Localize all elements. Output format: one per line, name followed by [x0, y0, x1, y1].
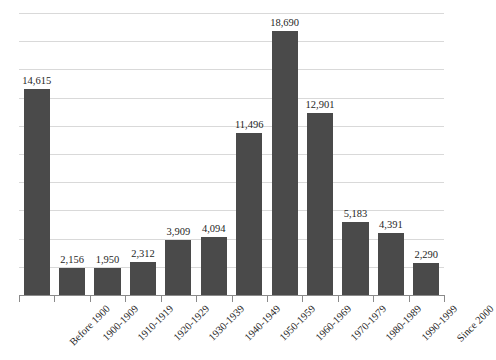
x-axis-category-label: 1970-1979 — [348, 303, 388, 343]
x-axis-tick — [196, 295, 197, 302]
bar-group: 12,901 — [307, 13, 333, 295]
bar[interactable] — [94, 268, 120, 295]
bar[interactable] — [413, 263, 439, 295]
x-axis-tick — [125, 295, 126, 302]
x-axis-category-label: 1960-1969 — [313, 303, 353, 343]
x-axis-category-label-text: 1980-1989 — [384, 303, 424, 343]
x-axis-category-label-text: 1930-1939 — [207, 303, 247, 343]
bar-group: 14,615 — [24, 13, 50, 295]
x-axis-category-label-text: 1940-1949 — [242, 303, 282, 343]
x-axis-category-label-text: Since 2000 — [455, 303, 496, 344]
x-axis-category-label-text: 1910-1919 — [136, 303, 176, 343]
x-axis-tick — [373, 295, 374, 302]
bar-group: 11,496 — [236, 13, 262, 295]
x-axis-tick — [232, 295, 233, 302]
x-axis-tick — [54, 295, 55, 302]
x-axis-tick — [338, 295, 339, 302]
bar-value-label: 2,312 — [131, 248, 155, 259]
x-axis-category-label-text: Before 1900 — [67, 303, 112, 348]
bar-value-label: 2,290 — [414, 249, 438, 260]
bar-group: 2,290 — [413, 13, 439, 295]
bar[interactable] — [201, 237, 227, 295]
bar-value-label: 1,950 — [96, 254, 120, 265]
bar-group: 3,909 — [165, 13, 191, 295]
x-axis-category-label: 1910-1919 — [136, 303, 176, 343]
x-axis-category-labels: Before 19001900-19091910-19191920-192919… — [19, 303, 444, 360]
bar-value-label: 11,496 — [235, 119, 264, 130]
bar-value-label: 4,094 — [202, 223, 226, 234]
bar-value-label: 14,615 — [22, 75, 51, 86]
bar-group: 2,312 — [130, 13, 156, 295]
bar[interactable] — [24, 89, 50, 295]
x-axis-category-label-text: 1960-1969 — [313, 303, 353, 343]
x-axis-category-label: 1950-1959 — [277, 303, 317, 343]
bar-value-label: 12,901 — [306, 99, 335, 110]
bar-group: 1,950 — [94, 13, 120, 295]
bar-value-label: 2,156 — [60, 254, 84, 265]
bar[interactable] — [342, 222, 368, 295]
bar-value-label: 4,391 — [379, 219, 403, 230]
x-axis-category-label-text: 1990-1999 — [419, 303, 459, 343]
bar[interactable] — [307, 113, 333, 295]
x-axis-tick — [302, 295, 303, 302]
x-axis-tick — [161, 295, 162, 302]
bar-group: 18,690 — [272, 13, 298, 295]
x-axis-category-label-text: 1970-1979 — [348, 303, 388, 343]
bar[interactable] — [165, 240, 191, 295]
bar[interactable] — [59, 268, 85, 295]
x-axis-tick — [409, 295, 410, 302]
x-axis-tick — [19, 295, 20, 302]
x-axis-tick — [444, 295, 445, 302]
bar-value-label: 5,183 — [344, 208, 368, 219]
x-axis-category-label: Since 2000 — [455, 303, 496, 344]
bar[interactable] — [236, 133, 262, 295]
x-axis-tick — [90, 295, 91, 302]
bar-group: 4,391 — [378, 13, 404, 295]
x-axis-category-label: 1920-1929 — [171, 303, 211, 343]
bar[interactable] — [272, 31, 298, 295]
x-axis-category-label-text: 1920-1929 — [171, 303, 211, 343]
x-axis-category-label: 1990-1999 — [419, 303, 459, 343]
x-axis-category-label: 1940-1949 — [242, 303, 282, 343]
bar-value-label: 18,690 — [270, 17, 299, 28]
bar-group: 2,156 — [59, 13, 85, 295]
bars-layer: 14,6152,1561,9502,3123,9094,09411,49618,… — [19, 13, 444, 295]
bar[interactable] — [130, 262, 156, 295]
x-axis-category-label: 1980-1989 — [384, 303, 424, 343]
x-axis-tick — [267, 295, 268, 302]
x-axis-category-label: 1930-1939 — [207, 303, 247, 343]
bar-group: 4,094 — [201, 13, 227, 295]
x-axis-category-label-text: 1950-1959 — [277, 303, 317, 343]
bar-value-label: 3,909 — [167, 226, 191, 237]
x-axis-category-label: Before 1900 — [67, 303, 112, 348]
bar[interactable] — [378, 233, 404, 295]
bar-group: 5,183 — [342, 13, 368, 295]
